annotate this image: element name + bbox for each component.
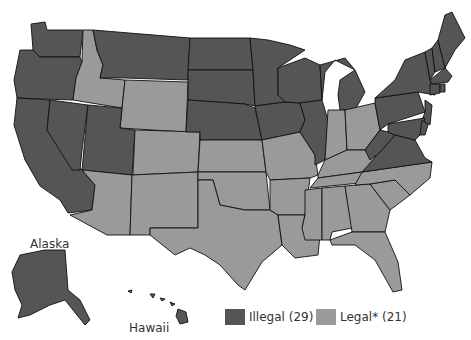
state-wy: [120, 80, 188, 132]
state-wa: [31, 22, 83, 57]
state-ar: [270, 178, 310, 215]
state-co: [133, 130, 200, 175]
state-ct: [430, 84, 440, 95]
state-mt: [93, 30, 190, 80]
alaska-label: Alaska: [30, 237, 69, 251]
state-ms: [302, 188, 322, 240]
state-nm: [130, 172, 198, 235]
legend-swatch-illegal: [225, 309, 245, 325]
legend-swatch-legal: [316, 309, 336, 325]
legend-legal: Legal* (21): [316, 309, 407, 325]
state-ak: [12, 250, 90, 325]
state-hi: [128, 290, 188, 324]
legend-label-legal: Legal* (21): [340, 310, 407, 324]
legend-label-illegal: Illegal (29): [249, 310, 313, 324]
state-ri: [440, 84, 445, 92]
state-nd: [188, 38, 253, 70]
state-fl: [330, 232, 402, 292]
hawaii-label: Hawaii: [129, 321, 169, 335]
state-mi: [320, 58, 365, 110]
state-wi: [278, 58, 322, 103]
us-choropleth-map: [0, 0, 471, 340]
state-ks: [198, 140, 266, 172]
legend-illegal: Illegal (29): [225, 309, 313, 325]
state-or: [14, 50, 82, 100]
